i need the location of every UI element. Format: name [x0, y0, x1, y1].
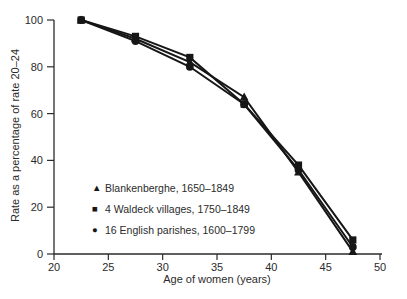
triangle-marker-icon: ▲: [92, 183, 105, 193]
x-tick-label: 45: [320, 261, 332, 273]
y-tick-label: 80: [31, 61, 43, 73]
data-point-square: [295, 161, 302, 168]
y-tick-label: 40: [31, 154, 43, 166]
legend-item-english-parishes: ● 16 English parishes, 1600–1799: [92, 219, 255, 240]
y-tick-label: 60: [31, 108, 43, 120]
square-marker-icon: ■: [92, 204, 105, 214]
x-axis-title: Age of women (years): [117, 273, 317, 285]
data-point-square: [186, 54, 193, 61]
x-tick-label: 35: [211, 261, 223, 273]
data-point-square: [78, 16, 85, 23]
x-tick-label: 40: [265, 261, 277, 273]
circle-marker-icon: ●: [92, 225, 105, 235]
data-point-triangle: [240, 93, 249, 101]
legend-label: 16 English parishes, 1600–1799: [105, 224, 255, 236]
legend-label: Blankenberghe, 1650–1849: [105, 182, 234, 194]
data-point-square: [241, 101, 248, 108]
y-tick-label: 0: [37, 248, 43, 260]
x-tick-label: 20: [48, 261, 60, 273]
y-tick-label: 100: [25, 14, 43, 26]
legend: ▲ Blankenberghe, 1650–1849 ■ 4 Waldeck v…: [92, 177, 255, 240]
data-point-square: [132, 33, 139, 40]
legend-label: 4 Waldeck villages, 1750–1849: [105, 203, 250, 215]
legend-item-waldeck-villages: ■ 4 Waldeck villages, 1750–1849: [92, 198, 255, 219]
data-point-square: [349, 236, 356, 243]
y-tick-label: 20: [31, 201, 43, 213]
legend-item-blankenberghe: ▲ Blankenberghe, 1650–1849: [92, 177, 255, 198]
x-tick-label: 30: [157, 261, 169, 273]
x-tick-label: 50: [374, 261, 386, 273]
y-axis-title: Rate as a percentage of rate 20–24: [9, 16, 22, 256]
x-tick-label: 25: [102, 261, 114, 273]
line-chart-canvas: 02040608010020253035404550: [0, 0, 407, 299]
fertility-decline-chart-figure: 02040608010020253035404550 Rate as a per…: [0, 0, 407, 299]
